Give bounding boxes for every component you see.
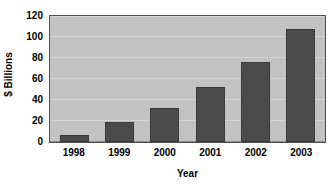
bar-2003 xyxy=(286,29,315,142)
bar-2002 xyxy=(241,62,270,142)
bar-slot xyxy=(278,16,323,142)
y-axis-tick-label: 40 xyxy=(32,94,43,105)
bar-slot xyxy=(233,16,278,142)
bar-slot xyxy=(142,16,187,142)
x-axis-tick-label: 1999 xyxy=(97,146,143,162)
bar-1999 xyxy=(105,122,134,142)
bar-chart: $ Billions 020406080100120 1998199920002… xyxy=(0,0,336,193)
y-axis-tick-label: 20 xyxy=(32,115,43,126)
bar-slot xyxy=(188,16,233,142)
bar-slot xyxy=(97,16,142,142)
y-axis-tick-labels: 020406080100120 xyxy=(16,10,46,146)
x-axis-tick-label: 1998 xyxy=(51,146,97,162)
bars-layer xyxy=(50,16,325,142)
y-axis-title: $ Billions xyxy=(0,0,16,148)
bar-1998 xyxy=(60,135,89,142)
bar-2000 xyxy=(150,108,179,142)
y-axis-tick-label: 120 xyxy=(26,10,43,21)
x-axis-title: Year xyxy=(49,168,326,179)
x-axis-tick-labels: 199819992000200120022003 xyxy=(49,146,326,162)
x-axis-tick-label: 2001 xyxy=(188,146,234,162)
y-axis-tick-label: 0 xyxy=(37,136,43,147)
y-axis-tick-label: 60 xyxy=(32,73,43,84)
y-axis-tick-label: 100 xyxy=(26,31,43,42)
y-axis-title-text: $ Billions xyxy=(3,52,14,96)
x-axis-tick-label: 2002 xyxy=(233,146,279,162)
bar-slot xyxy=(52,16,97,142)
x-axis-tick-label: 2000 xyxy=(142,146,188,162)
y-axis-tick-label: 80 xyxy=(32,52,43,63)
plot-area xyxy=(49,15,326,143)
x-axis-tick-label: 2003 xyxy=(279,146,325,162)
bar-2001 xyxy=(196,87,225,142)
